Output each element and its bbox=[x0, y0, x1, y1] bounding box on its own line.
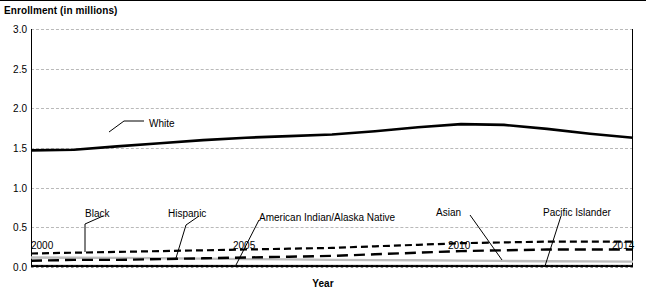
series-label-american-indian-alaska-native: American Indian/Alaska Native bbox=[259, 212, 395, 223]
x-tick-label-2010: 2010 bbox=[448, 241, 470, 251]
enrollment-line-chart: Enrollment (in millions) 3.0 2.5 2.0 1.5… bbox=[0, 0, 646, 296]
y-tick-label: 2.0 bbox=[13, 104, 27, 114]
y-tick-label: 3.0 bbox=[13, 25, 27, 35]
leader-hispanic bbox=[176, 216, 199, 258]
top-divider bbox=[0, 0, 646, 1]
y-tick-label: 1.5 bbox=[13, 144, 27, 154]
series-label-hispanic: Hispanic bbox=[168, 208, 206, 219]
x-tick-label-2000: 2000 bbox=[31, 241, 53, 251]
series-label-white: White bbox=[149, 118, 175, 129]
y-tick-label: 0.0 bbox=[13, 263, 27, 273]
y-tick-label: 1.0 bbox=[13, 184, 27, 194]
y-tick-label: 2.5 bbox=[13, 65, 27, 75]
y-axis-title: Enrollment (in millions) bbox=[4, 5, 118, 16]
series-label-black: Black bbox=[85, 208, 109, 219]
annotation-leader-lines bbox=[31, 29, 633, 267]
leader-asian bbox=[470, 215, 502, 260]
series-label-pacific-islander: Pacific Islander bbox=[543, 207, 611, 218]
leader-pacific-islander bbox=[545, 216, 561, 266]
x-axis-title: Year bbox=[0, 278, 646, 289]
x-tick-label-2005: 2005 bbox=[233, 241, 255, 251]
y-tick-label: 0.5 bbox=[13, 223, 27, 233]
series-label-asian: Asian bbox=[436, 207, 461, 218]
plot-area: 3.0 2.5 2.0 1.5 1.0 0.5 0.0 bbox=[31, 29, 633, 267]
x-tick-label-2014: 2014 bbox=[612, 241, 634, 251]
leader-white bbox=[109, 121, 144, 132]
leader-black bbox=[85, 216, 103, 252]
